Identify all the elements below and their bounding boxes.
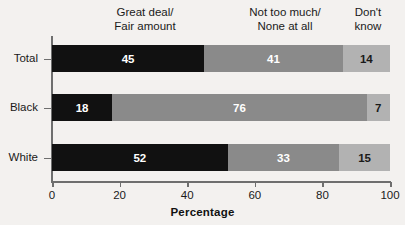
bar-row: 523315 [52, 144, 390, 171]
legend-header-dont-line1: Don't [340, 6, 396, 20]
legend-header-dont-know: Don't know [340, 6, 396, 33]
bar-row: 18767 [52, 94, 390, 121]
x-axis-tick [255, 182, 257, 187]
bar-value-label: 41 [267, 53, 280, 65]
bar-segment: 33 [228, 144, 340, 171]
bar-row: 454114 [52, 45, 390, 72]
y-axis-tick [44, 59, 52, 61]
bar-segment: 41 [204, 45, 343, 72]
plot-area: 45411418767523315 [52, 40, 390, 181]
y-axis-tick [44, 158, 52, 160]
x-axis-tick-label: 80 [316, 189, 329, 201]
bar-segment: 76 [112, 94, 366, 121]
bar-segment: 15 [339, 144, 390, 171]
x-axis-tick [120, 182, 122, 187]
bar-segment: 14 [343, 45, 390, 72]
bar-value-label: 45 [122, 53, 135, 65]
y-axis-tick [44, 108, 52, 110]
bar-value-label: 76 [233, 102, 246, 114]
bar-value-label: 18 [76, 102, 89, 114]
x-axis-tick-label: 60 [248, 189, 261, 201]
legend-header-dont-line2: know [340, 20, 396, 34]
x-axis-tick [52, 182, 54, 187]
x-axis-tick-label: 40 [181, 189, 194, 201]
x-axis-tick-label: 20 [113, 189, 126, 201]
bar-segment: 18 [52, 94, 112, 121]
x-axis-tick-label: 0 [49, 189, 55, 201]
x-axis-tick [390, 182, 392, 187]
bar-value-label: 52 [133, 152, 146, 164]
bar-value-label: 15 [358, 152, 371, 164]
bar-value-label: 14 [360, 53, 373, 65]
legend-header-great-line1: Great deal/ [84, 6, 206, 20]
x-axis-tick-label: 100 [380, 189, 399, 201]
legend-header-nottoo-line2: None at all [222, 20, 348, 34]
category-label: Total [14, 52, 38, 64]
legend-header-nottoo-line1: Not too much/ [222, 6, 348, 20]
bar-segment: 52 [52, 144, 228, 171]
bar-value-label: 7 [375, 102, 381, 114]
bar-segment: 45 [52, 45, 204, 72]
x-axis-line [51, 181, 391, 183]
legend-header-not-too-much-none-at-all: Not too much/ None at all [222, 6, 348, 33]
legend-header-great-line2: Fair amount [84, 20, 206, 34]
bar-value-label: 33 [277, 152, 290, 164]
x-axis-tick [322, 182, 324, 187]
bar-segment: 7 [367, 94, 390, 121]
category-labels: TotalBlackWhite [0, 40, 38, 181]
category-label: White [9, 151, 38, 163]
x-axis-tick [187, 182, 189, 187]
category-label: Black [10, 101, 38, 113]
x-axis-title: Percentage [0, 206, 405, 218]
stacked-bar-chart: Great deal/ Fair amount Not too much/ No… [0, 0, 405, 225]
legend-header-great-deal-fair-amount: Great deal/ Fair amount [84, 6, 206, 33]
